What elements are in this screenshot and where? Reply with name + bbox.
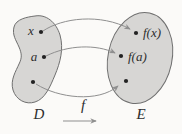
element-a-dot — [42, 55, 46, 59]
image-fx-dot — [134, 31, 138, 35]
image-fx-label: f(x) — [143, 25, 161, 40]
codomain-label: E — [135, 106, 145, 122]
function-label: f — [81, 97, 87, 113]
element-a-label: a — [31, 49, 38, 64]
function-diagram: x a f(x) f(a) D E f — [0, 0, 182, 134]
image-fa-dot — [119, 54, 123, 58]
element-unlabeled-dot — [31, 80, 35, 84]
image-unlabeled-dot — [124, 79, 128, 83]
function-diagram-canvas: x a f(x) f(a) D E f — [0, 0, 182, 134]
image-fa-label: f(a) — [128, 49, 147, 64]
domain-label: D — [33, 106, 45, 122]
element-x-dot — [39, 30, 43, 34]
element-x-label: x — [27, 23, 34, 38]
